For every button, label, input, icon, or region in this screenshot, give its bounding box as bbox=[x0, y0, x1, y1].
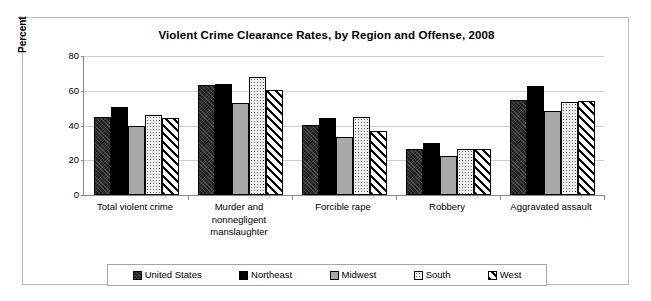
chart-title: Violent Crime Clearance Rates, by Region… bbox=[23, 29, 630, 41]
legend-swatch-icon bbox=[330, 271, 339, 280]
category-tick bbox=[500, 195, 501, 200]
x-axis-label: Forcible rape bbox=[291, 201, 395, 214]
legend-label: South bbox=[426, 270, 451, 280]
bar[interactable] bbox=[527, 86, 544, 195]
bar[interactable] bbox=[111, 107, 128, 195]
x-axis-label-line: manslaughter bbox=[187, 226, 291, 239]
legend-swatch-icon bbox=[239, 271, 248, 280]
legend-swatch-icon bbox=[133, 271, 142, 280]
bar[interactable] bbox=[162, 118, 179, 195]
bar[interactable] bbox=[406, 149, 423, 195]
bar[interactable] bbox=[232, 103, 249, 195]
bar[interactable] bbox=[302, 125, 319, 195]
bar[interactable] bbox=[544, 111, 561, 195]
bar[interactable] bbox=[266, 90, 283, 195]
x-axis-label: Murder andnonnegligentmanslaughter bbox=[187, 201, 291, 239]
bar[interactable] bbox=[370, 131, 387, 195]
legend-swatch-icon bbox=[414, 271, 423, 280]
bar[interactable] bbox=[474, 149, 491, 195]
legend-item[interactable]: Northeast bbox=[239, 270, 292, 280]
legend-label: West bbox=[500, 270, 521, 280]
category-tick bbox=[396, 195, 397, 200]
y-tick-label-60: 60 bbox=[39, 86, 79, 96]
bar[interactable] bbox=[510, 100, 527, 195]
legend-item[interactable]: Midwest bbox=[330, 270, 377, 280]
bar[interactable] bbox=[578, 101, 595, 195]
category-tick bbox=[292, 195, 293, 200]
x-axis-label: Total violent crime bbox=[83, 201, 187, 214]
bar-group bbox=[292, 56, 396, 195]
x-axis-label-line: Murder and bbox=[187, 201, 291, 214]
x-axis-label-line: Total violent crime bbox=[83, 201, 187, 214]
category-tick bbox=[604, 195, 605, 200]
x-axis-label-line: nonnegligent bbox=[187, 214, 291, 227]
legend-label: Midwest bbox=[342, 270, 377, 280]
bar[interactable] bbox=[145, 115, 162, 195]
chart-frame: Violent Crime Clearance Rates, by Region… bbox=[22, 17, 629, 285]
gridline-0 bbox=[84, 195, 604, 196]
bar-group bbox=[500, 56, 604, 195]
y-axis-title: Percent bbox=[17, 16, 28, 53]
bar[interactable] bbox=[457, 149, 474, 195]
y-tick-label-40: 40 bbox=[39, 121, 79, 131]
bar[interactable] bbox=[128, 126, 145, 195]
bar[interactable] bbox=[353, 117, 370, 195]
bar[interactable] bbox=[319, 118, 336, 195]
bar-group bbox=[396, 56, 500, 195]
x-axis-label-line: Aggravated assault bbox=[499, 201, 603, 214]
y-tick-mark-0 bbox=[81, 195, 84, 196]
bar[interactable] bbox=[94, 117, 111, 195]
y-tick-label-0: 0 bbox=[39, 190, 79, 200]
y-tick-label-80: 80 bbox=[39, 51, 79, 61]
legend-label: United States bbox=[145, 270, 202, 280]
chart-page: Violent Crime Clearance Rates, by Region… bbox=[0, 0, 651, 301]
bar[interactable] bbox=[198, 85, 215, 196]
legend-item[interactable]: United States bbox=[133, 270, 202, 280]
bar-group bbox=[188, 56, 292, 195]
plot-area: 020406080 bbox=[83, 56, 603, 195]
chart-legend: United StatesNortheastMidwestSouthWest bbox=[107, 264, 547, 286]
bar[interactable] bbox=[336, 137, 353, 195]
x-axis-label-line: Forcible rape bbox=[291, 201, 395, 214]
bar-group bbox=[84, 56, 188, 195]
legend-swatch-icon bbox=[488, 271, 497, 280]
bar[interactable] bbox=[561, 102, 578, 195]
category-tick bbox=[188, 195, 189, 200]
x-axis-label: Robbery bbox=[395, 201, 499, 214]
y-tick-label-20: 20 bbox=[39, 155, 79, 165]
legend-label: Northeast bbox=[251, 270, 292, 280]
bar[interactable] bbox=[440, 156, 457, 195]
x-axis-label-line: Robbery bbox=[395, 201, 499, 214]
bar-groups bbox=[84, 56, 604, 195]
x-axis-label: Aggravated assault bbox=[499, 201, 603, 214]
bar[interactable] bbox=[215, 84, 232, 195]
bar[interactable] bbox=[423, 143, 440, 195]
legend-item[interactable]: West bbox=[488, 270, 521, 280]
bar[interactable] bbox=[249, 77, 266, 195]
legend-item[interactable]: South bbox=[414, 270, 451, 280]
